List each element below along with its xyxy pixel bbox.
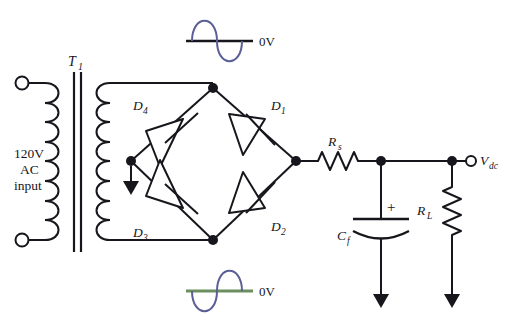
ac-input-terminal-top[interactable] <box>16 77 29 90</box>
load-resistor-label-text: R <box>416 203 426 218</box>
ac-input-label-line2: AC <box>20 162 39 177</box>
ac-input-terminal-bottom[interactable] <box>16 234 29 247</box>
diode-d4-label-subscript: 4 <box>143 106 148 116</box>
filter-capacitor-label-subscript: f <box>347 236 351 246</box>
output-waveform-zero-label: 0V <box>259 284 276 299</box>
series-resistor-label-subscript: s <box>338 142 342 152</box>
diode-d3-symbol <box>146 160 198 214</box>
schematic-svg: 120V AC input T 1 D 4 <box>0 0 507 333</box>
diode-d2-label: D 2 <box>270 219 286 237</box>
output-waveform: 0V <box>186 271 276 312</box>
filter-capacitor-label: C f <box>337 228 351 246</box>
vdc-output-label-subscript: dc <box>489 161 499 171</box>
ac-input-label-line1: 120V <box>14 146 44 161</box>
diode-d1-symbol <box>229 114 275 155</box>
vdc-terminal-circle[interactable] <box>466 156 476 166</box>
diode-d1-label: D 1 <box>270 98 286 116</box>
vdc-output-terminal[interactable] <box>466 156 476 166</box>
filter-capacitor <box>353 156 409 300</box>
transformer-core <box>74 72 81 252</box>
diode-d3-label-subscript: 3 <box>142 233 148 243</box>
load-resistor <box>443 156 461 300</box>
circuit-diagram-canvas: 120V AC input T 1 D 4 <box>0 0 507 333</box>
diode-d4-label-text: D <box>132 98 143 113</box>
load-resistor-label: R L <box>416 203 432 221</box>
diode-d2-label-subscript: 2 <box>281 227 286 237</box>
filter-capacitor-label-text: C <box>337 228 347 243</box>
series-resistor <box>300 152 381 170</box>
load-resistor-label-subscript: L <box>426 211 432 221</box>
bridge-rectifier: D 4 D 1 D 3 D 2 <box>126 83 301 245</box>
diode-d2-symbol <box>229 172 275 213</box>
diode-d4-symbol <box>146 113 198 167</box>
series-resistor-label-text: R <box>327 134 337 149</box>
transformer-primary-winding <box>45 83 59 240</box>
diode-d1-label-subscript: 1 <box>281 106 286 116</box>
capacitor-polarity-plus: + <box>387 199 395 215</box>
bridge-node-bottom <box>208 235 218 245</box>
diode-d2-label-text: D <box>270 219 281 234</box>
bridge-node-ground <box>126 156 136 166</box>
bridge-node-top <box>208 83 218 93</box>
ac-input-label: 120V AC input <box>14 146 44 193</box>
series-resistor-label: R s <box>327 134 342 152</box>
diode-d4-label: D 4 <box>132 98 148 116</box>
transformer-label-subscript: 1 <box>78 61 83 72</box>
diode-d1-label-text: D <box>270 98 281 113</box>
vdc-output-label: V dc <box>480 153 499 171</box>
transformer-label: T 1 <box>68 54 83 72</box>
transformer-label-text: T <box>68 54 77 69</box>
input-waveform-zero-label: 0V <box>259 34 276 49</box>
input-waveform: 0V <box>186 21 276 62</box>
ac-input-label-line3: input <box>14 178 42 193</box>
transformer-secondary-winding <box>97 83 111 240</box>
diode-d3-label-text: D <box>132 225 143 240</box>
